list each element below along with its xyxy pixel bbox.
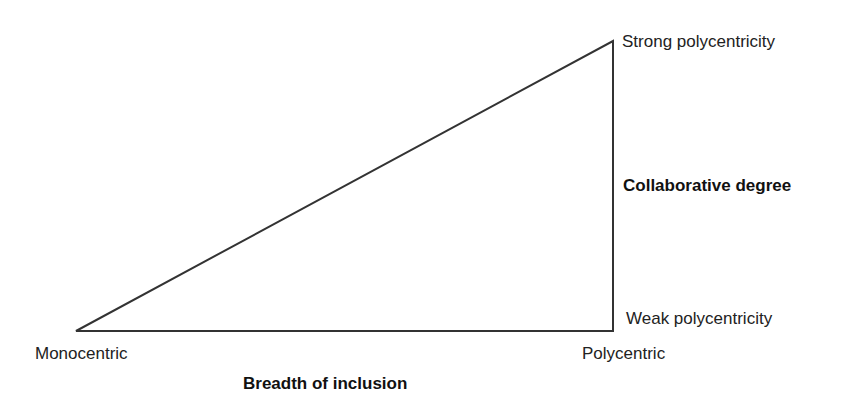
label-weak-polycentricity: Weak polycentricity xyxy=(626,310,772,327)
triangle-shape xyxy=(76,41,613,331)
label-monocentric: Monocentric xyxy=(35,345,128,362)
label-strong-polycentricity: Strong polycentricity xyxy=(622,33,775,50)
label-breadth-of-inclusion: Breadth of inclusion xyxy=(243,375,407,392)
label-polycentric: Polycentric xyxy=(582,345,665,362)
triangle-diagram xyxy=(0,0,857,407)
label-collaborative-degree: Collaborative degree xyxy=(623,177,791,194)
